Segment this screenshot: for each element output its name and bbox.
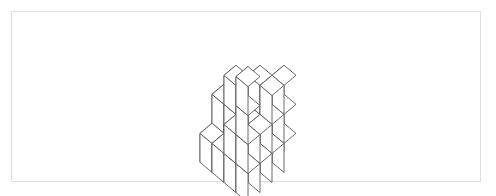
cube-group xyxy=(200,65,296,196)
isometric-cube-stack-figure xyxy=(0,0,496,196)
